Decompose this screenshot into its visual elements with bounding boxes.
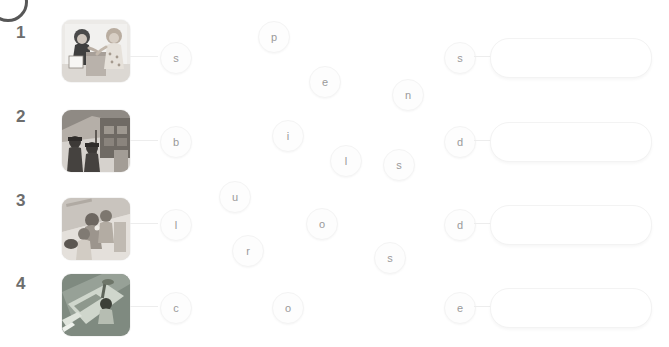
connector-line: [130, 140, 158, 141]
letter-bubble[interactable]: e: [309, 66, 341, 98]
letter-bubble[interactable]: b: [160, 126, 192, 158]
letter-bubble[interactable]: s: [383, 149, 415, 181]
answer-box[interactable]: [490, 122, 652, 162]
letter-bubble[interactable]: o: [306, 208, 338, 240]
letter-bubble[interactable]: p: [258, 21, 290, 53]
connector-line: [130, 56, 158, 57]
letter-bubble[interactable]: u: [219, 181, 251, 213]
answer-box[interactable]: [490, 205, 652, 245]
letter-bubble[interactable]: e: [444, 292, 476, 324]
circle-badge-icon: [0, 0, 28, 22]
answer-box[interactable]: [490, 38, 652, 78]
letter-bubble[interactable]: d: [444, 126, 476, 158]
connector-line: [130, 306, 158, 307]
worksheet-canvas: 1 s p e n s: [0, 0, 669, 347]
row-thumbnail[interactable]: [62, 198, 130, 260]
row-number: 1: [16, 24, 25, 41]
letter-bubble[interactable]: l: [330, 145, 362, 177]
answer-box[interactable]: [490, 288, 652, 328]
letter-bubble[interactable]: n: [392, 79, 424, 111]
row-number: 3: [16, 192, 25, 209]
thumbnail-illustration-2: [62, 110, 130, 172]
letter-bubble[interactable]: c: [160, 292, 192, 324]
row-number: 4: [16, 275, 25, 292]
letter-bubble[interactable]: r: [232, 235, 264, 267]
letter-bubble[interactable]: s: [444, 42, 476, 74]
letter-bubble[interactable]: i: [272, 120, 304, 152]
letter-bubble[interactable]: l: [160, 209, 192, 241]
thumbnail-illustration-4: [62, 274, 130, 336]
letter-bubble[interactable]: o: [272, 292, 304, 324]
thumbnail-illustration-3: [62, 198, 130, 260]
row-thumbnail[interactable]: [62, 20, 130, 82]
letter-bubble[interactable]: d: [444, 209, 476, 241]
row-thumbnail[interactable]: [62, 110, 130, 172]
row-number: 2: [16, 108, 25, 125]
row-thumbnail[interactable]: [62, 274, 130, 336]
connector-line: [130, 223, 158, 224]
thumbnail-illustration-1: [62, 20, 130, 82]
letter-bubble[interactable]: s: [374, 242, 406, 274]
letter-bubble[interactable]: s: [160, 42, 192, 74]
